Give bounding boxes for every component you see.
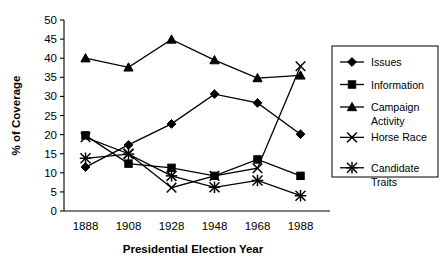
y-axis: 05101520253035404550 [44,14,64,217]
y-tick-label: 25 [44,110,57,122]
data-point-diamond [253,98,262,107]
data-point-asterisk [80,153,92,165]
data-point-asterisk [295,190,307,202]
chart-legend: IssuesInformationCampaignActivityHorse R… [332,46,438,188]
series-group [80,35,307,202]
y-tick-label: 40 [44,52,57,64]
data-point-diamond [210,90,219,99]
x-axis: 188819081928194819681988 [64,211,330,232]
series-campaign-activity [81,35,305,82]
series-horse-race [81,61,306,192]
series-path [86,66,301,187]
series-issues [81,90,305,172]
y-tick-label: 10 [44,167,57,179]
x-tick-label: 1928 [159,220,185,232]
chart-container: 05101520253035404550 1888190819281948196… [0,0,444,256]
data-point-asterisk [346,162,358,174]
x-axis-title: Presidential Election Year [123,243,264,255]
line-chart: 05101520253035404550 1888190819281948196… [0,0,444,256]
y-tick-label: 20 [44,129,57,141]
data-point-triangle [167,35,176,43]
legend-label-line2: Traits [371,176,397,188]
y-tick-label: 30 [44,90,57,102]
data-point-square [348,81,355,88]
x-tick-group: 188819081928194819681988 [73,220,314,232]
data-point-diamond [167,120,176,129]
data-point-square [125,160,132,167]
series-candidate-traits [80,148,307,201]
legend-item-information[interactable]: Information [340,79,424,91]
y-tick-label: 50 [44,14,57,26]
data-point-triangle [210,56,219,64]
data-point-triangle [81,54,90,62]
data-point-cross [167,183,177,193]
data-point-asterisk [123,148,135,160]
x-tick-label: 1948 [202,220,228,232]
y-tick-group: 05101520253035404550 [44,14,64,217]
x-tick-label: 1988 [288,220,314,232]
series-path [86,154,301,196]
x-tick-label: 1908 [116,220,142,232]
x-tick-label: 1968 [245,220,271,232]
data-point-cross [296,61,306,71]
legend-label: Horse Race [371,131,427,143]
data-point-asterisk [252,175,264,187]
legend-label: Candidate [371,162,419,174]
legend-label-line2: Activity [371,115,405,127]
data-point-diamond [124,141,133,150]
y-axis-title: % of Coverage [10,76,22,156]
legend-label: Issues [371,56,402,68]
y-tick-label: 35 [44,71,57,83]
legend-label: Campaign [371,101,419,113]
data-point-square [297,172,304,179]
x-tick-label: 1888 [73,220,99,232]
data-point-asterisk [166,170,178,182]
y-tick-label: 0 [51,205,57,217]
y-tick-label: 15 [44,148,57,160]
data-point-diamond [296,130,305,139]
series-path [86,39,301,78]
y-tick-label: 5 [51,186,57,198]
legend-label: Information [371,79,424,91]
y-tick-label: 45 [44,33,57,45]
data-point-asterisk [209,182,221,194]
